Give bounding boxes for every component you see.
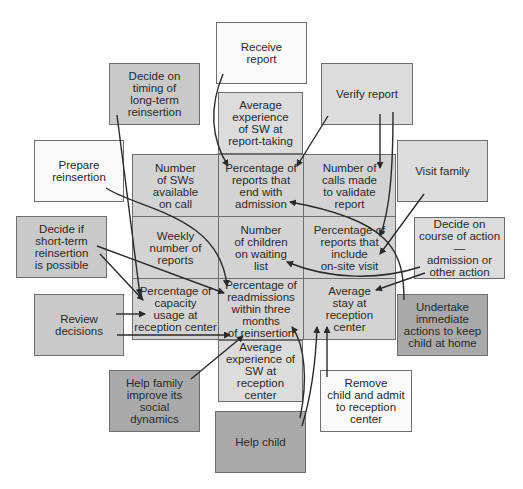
box-avg-experience-reception: Average experience of SW at reception ce… bbox=[218, 340, 303, 402]
cell-weekly-reports: Weekly number of reports bbox=[133, 217, 219, 279]
box-visit-family: Visit family bbox=[397, 140, 488, 202]
box-verify-report: Verify report bbox=[321, 63, 413, 125]
cell-children-waiting: Number of children on waiting list bbox=[219, 217, 304, 279]
cell-average-stay: Average stay at reception center bbox=[304, 279, 395, 339]
cell-calls-validate: Number of calls made to validate report bbox=[304, 155, 395, 217]
box-decide-course-of-action: Decide on course of action— admission or… bbox=[414, 217, 505, 279]
box-decide-short-term-reinsertion: Decide if short-term reinsertion is poss… bbox=[16, 216, 107, 278]
box-avg-experience-report-taking: Average experience of SW at report-takin… bbox=[218, 92, 303, 154]
box-decide-timing-reinsertion: Decide on timing of long-term reinsertio… bbox=[109, 63, 200, 125]
box-prepare-reinsertion: Prepare reinsertion bbox=[34, 140, 124, 202]
box-help-family: Help family improve its social dynamics bbox=[109, 370, 200, 432]
box-remove-child: Remove child and admit to reception cent… bbox=[320, 370, 412, 432]
cell-readmissions: Percentage of readmissions within three … bbox=[219, 279, 304, 339]
cell-number-of-sws: Number of SWs available on call bbox=[133, 155, 219, 217]
indicator-grid: Number of SWs available on call Percenta… bbox=[132, 154, 396, 340]
box-review-decisions: Review decisions bbox=[34, 294, 124, 356]
cell-pct-onsite-visit: Percentage of reports that include on-si… bbox=[304, 217, 395, 279]
box-help-child: Help child bbox=[215, 411, 306, 473]
box-receive-report: Receive report bbox=[216, 22, 307, 84]
box-undertake-immediate-actions: Undertake immediate actions to keep chil… bbox=[397, 294, 488, 356]
cell-pct-reports-admission: Percentage of reports that end with admi… bbox=[219, 155, 304, 217]
cell-capacity-usage: Percentage of capacity usage at receptio… bbox=[133, 279, 219, 339]
